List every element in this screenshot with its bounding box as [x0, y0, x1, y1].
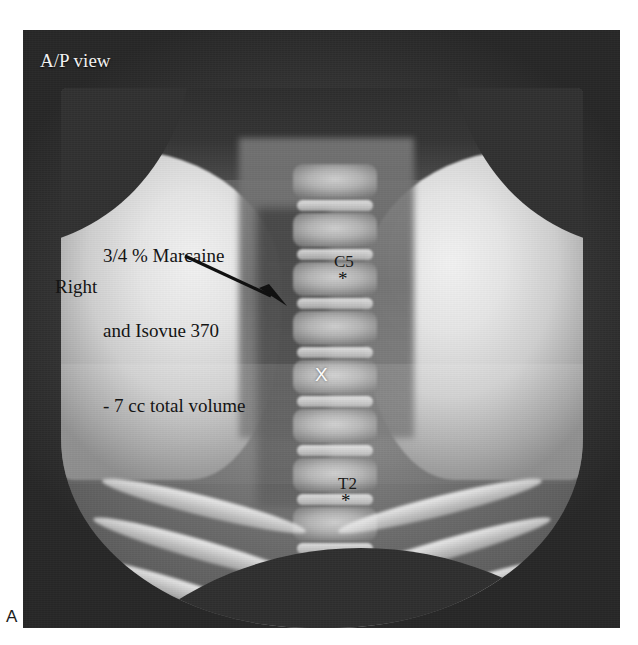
vertebral-body	[293, 360, 377, 394]
page-background: A/P view 3/4 % Marcaine and Isovue 370 -…	[0, 0, 638, 645]
side-label-right: Right	[55, 276, 97, 298]
intervertebral-disc-space	[297, 200, 373, 211]
vertebral-body	[293, 458, 377, 492]
vertebral-body	[293, 164, 377, 198]
intervertebral-disc-space	[297, 445, 373, 456]
vertebral-body	[293, 409, 377, 443]
vertebral-body	[293, 311, 377, 345]
figure-panel-label: A	[6, 607, 18, 627]
intervertebral-disc-space	[297, 298, 373, 309]
vertebral-body	[293, 213, 377, 247]
view-label: A/P view	[40, 50, 111, 72]
radiograph-image: A/P view 3/4 % Marcaine and Isovue 370 -…	[23, 30, 620, 628]
vertebra-asterisk-c5: *	[338, 274, 348, 284]
needle-tip-marker-x: X	[315, 364, 328, 386]
injectate-annotation: 3/4 % Marcaine and Isovue 370 - 7 cc tot…	[103, 193, 245, 468]
injectate-line-2: and Isovue 370	[103, 318, 245, 343]
intervertebral-disc-space	[297, 347, 373, 358]
needle-pointer-arrow	[183, 252, 293, 308]
intervertebral-disc-space	[297, 396, 373, 407]
injectate-line-3: - 7 cc total volume	[103, 393, 245, 418]
vertebra-asterisk-t2: *	[341, 496, 351, 506]
